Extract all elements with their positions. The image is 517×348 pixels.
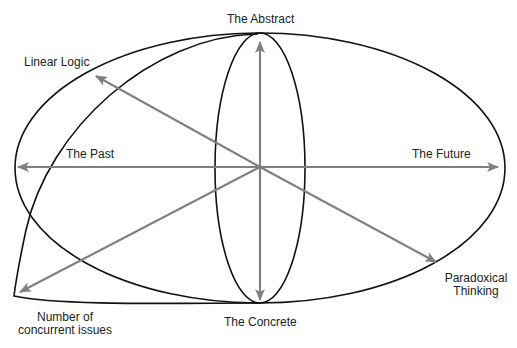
- label-linear-logic: Linear Logic: [24, 56, 89, 69]
- label-concrete: The Concrete: [224, 316, 297, 329]
- label-concurrent-issues: Number of concurrent issues: [12, 311, 118, 337]
- concurrent-issues-curve: [14, 34, 258, 303]
- label-paradoxical-thinking: Paradoxical Thinking: [436, 272, 516, 298]
- arrow-linear-logic: [96, 76, 260, 167]
- label-future: The Future: [412, 148, 471, 161]
- arrow-concurrent-issues: [20, 167, 260, 292]
- label-concurrent-line2: concurrent issues: [12, 324, 118, 337]
- arrow-paradoxical-thinking: [260, 167, 436, 262]
- label-paradoxical-line2: Thinking: [436, 285, 516, 298]
- label-past: The Past: [66, 148, 114, 161]
- label-abstract: The Abstract: [227, 13, 294, 26]
